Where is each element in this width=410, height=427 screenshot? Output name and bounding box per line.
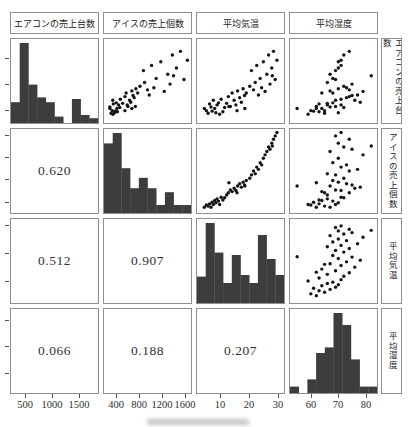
data-point [328,89,331,92]
data-point [130,89,133,92]
data-point [262,60,265,63]
data-point [265,73,268,76]
data-point [275,59,278,62]
data-point [361,236,364,239]
hist-bar [206,223,215,303]
data-point [123,95,126,98]
data-point [116,110,119,113]
hist-bar [174,205,183,213]
x-axis-tick-label: 10 [204,399,236,412]
data-point [221,110,224,113]
row-header-aircon: エアコンの売上台数 [381,38,402,124]
data-point [238,182,241,185]
data-point [265,150,268,153]
data-point [262,156,265,159]
data-point [227,191,230,194]
data-point [328,73,331,76]
data-point [320,267,323,270]
data-point [331,101,334,104]
data-point [227,181,230,184]
hist-bar [28,85,37,123]
data-point [342,275,345,278]
data-point [323,109,326,112]
correlation-cell-temp-ice: 0.907 [103,218,192,304]
data-point [138,85,141,88]
data-point [243,107,246,110]
data-point [186,59,189,62]
data-point [323,263,326,266]
data-point [217,101,220,104]
data-point [245,179,248,182]
data-point [337,111,340,114]
data-point [115,101,118,104]
x-axis-tick [311,394,312,398]
x-axis-tick [139,394,140,398]
data-point [359,258,362,261]
data-point [345,163,348,166]
data-point [337,283,340,286]
data-point [334,226,337,229]
data-point [152,86,155,89]
data-point [270,66,273,69]
hist-bar [241,275,250,303]
data-point [230,91,233,94]
data-point [353,265,356,268]
data-point [317,198,320,201]
data-point [337,66,340,69]
data-point [130,107,133,110]
scatter-panel-temp-vs-ice [196,128,285,214]
x-axis-tick [338,394,339,398]
data-point [236,89,239,92]
hist-bar [342,325,351,393]
data-point [353,99,356,102]
histogram-plot [104,129,191,213]
data-point [342,177,345,180]
data-point [271,144,274,147]
data-point [267,53,270,56]
hist-bar [325,347,334,393]
data-point [334,69,337,72]
data-point [235,191,238,194]
data-point [361,90,364,93]
data-point [331,179,334,182]
hist-bar [334,313,343,393]
data-point [345,182,348,185]
data-point [337,87,340,90]
data-point [134,105,137,108]
y-axis-tick [5,225,9,226]
data-point [154,77,157,80]
data-point [217,199,220,202]
data-point [326,245,329,248]
data-point [350,82,353,85]
data-point [315,181,318,184]
data-point [209,105,212,108]
x-axis-tick-label: 1600 [169,399,201,412]
data-point [345,96,348,99]
data-point [337,229,340,232]
data-point [159,60,162,63]
data-point [309,292,312,295]
x-axis-tick [220,394,221,398]
data-point [315,206,318,209]
hist-bar [165,192,174,213]
data-point [342,232,345,235]
data-point [315,105,318,108]
histogram-plot [11,39,98,123]
y-axis-tick [5,253,9,254]
data-point [240,101,243,104]
data-point [339,59,342,62]
data-point [315,294,318,297]
data-point [348,169,351,172]
data-point [339,244,342,247]
histogram-panel-humidity [289,308,378,394]
data-point [359,101,362,104]
row-header-humidity: 平均湿度 [381,308,402,394]
data-point [345,239,348,242]
data-point [353,187,356,190]
data-point [227,95,230,98]
hist-bar [81,115,90,123]
hist-bar [197,277,206,303]
data-point [208,102,211,105]
scatter-panel-humidity-vs-aircon [289,38,378,124]
data-point [326,282,329,285]
